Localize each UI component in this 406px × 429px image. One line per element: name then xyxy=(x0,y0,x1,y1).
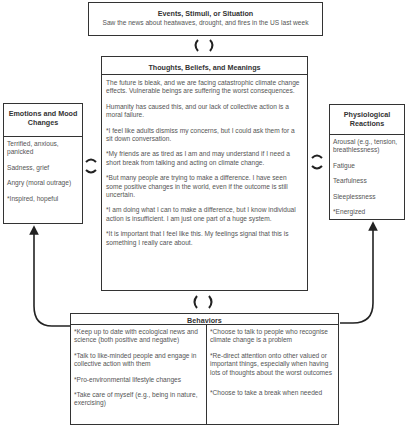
thought-item: *My friends are as tired as I am and may… xyxy=(106,150,303,167)
physiological-list: Arousal (e.g., tension, breathlessness) … xyxy=(330,135,404,216)
thoughts-box: Thoughts, Beliefs, and Meanings The futu… xyxy=(101,56,308,291)
events-text: Saw the news about heatwaves, drought, a… xyxy=(89,19,322,27)
physiological-item: Arousal (e.g., tension, breathlessness) xyxy=(333,138,401,155)
behaviors-left-column: *Keep up to date with ecological news an… xyxy=(71,325,207,424)
emotion-item: Sadness, grief xyxy=(7,164,79,172)
behaviors-right-column: *Choose to talk to people who recognise … xyxy=(207,325,338,424)
emotions-title: Emotions and Mood Changes xyxy=(4,104,82,137)
thought-item: *It is important that I feel like this. … xyxy=(106,230,303,247)
behavior-item: *Re-direct attention onto other valued o… xyxy=(210,352,335,377)
behavior-item: *Take care of myself (e.g., being in nat… xyxy=(74,391,202,408)
cycle-icon-emotions-thoughts xyxy=(86,160,96,173)
emotion-item: Terrified, anxious, panicked xyxy=(7,140,79,157)
emotion-item: Angry (moral outrage) xyxy=(7,179,79,187)
events-box: Events, Stimuli, or Situation Saw the ne… xyxy=(88,2,323,36)
cycle-icon-events-thoughts xyxy=(196,40,213,51)
physiological-title: Physiological Reactions xyxy=(330,105,404,135)
emotions-box: Emotions and Mood Changes Terrified, anx… xyxy=(3,103,83,224)
behavior-item: *Pro-environmental lifestyle changes xyxy=(74,376,202,384)
thought-item: The future is bleak, and we are facing c… xyxy=(106,79,303,96)
arrow-behaviors-to-emotions xyxy=(34,230,70,326)
cycle-icon-thoughts-physiological xyxy=(312,156,322,169)
physiological-item: *Energized xyxy=(333,208,401,216)
behaviors-box: Behaviors *Keep up to date with ecologic… xyxy=(70,313,339,425)
emotion-item: *Inspired, hopeful xyxy=(7,195,79,203)
behavior-item: *Talk to like-minded people and engage i… xyxy=(74,352,202,369)
thoughts-list: The future is bleak, and we are facing c… xyxy=(102,75,307,247)
physiological-item: Fatigue xyxy=(333,162,401,170)
thought-item: *I am doing what I can to make a differe… xyxy=(106,206,303,223)
events-title: Events, Stimuli, or Situation xyxy=(89,3,322,19)
behavior-item: *Choose to take a break when needed xyxy=(210,389,335,397)
thought-item: Humanity has caused this, and our lack o… xyxy=(106,103,303,120)
physiological-box: Physiological Reactions Arousal (e.g., t… xyxy=(329,104,405,220)
emotions-list: Terrified, anxious, panicked Sadness, gr… xyxy=(4,137,82,203)
behaviors-columns: *Keep up to date with ecological news an… xyxy=(71,325,338,424)
physiological-item: Tearfulness xyxy=(333,177,401,185)
arrow-behaviors-to-physiological xyxy=(340,226,373,323)
cycle-icon-thoughts-behaviors xyxy=(195,296,212,308)
physiological-item: Sleeplessness xyxy=(333,193,401,201)
thoughts-title: Thoughts, Beliefs, and Meanings xyxy=(102,57,307,75)
thought-item: *But many people are trying to make a di… xyxy=(106,174,303,199)
behavior-item: *Choose to talk to people who recognise … xyxy=(210,328,335,345)
behavior-item: *Keep up to date with ecological news an… xyxy=(74,328,202,345)
behaviors-title: Behaviors xyxy=(71,314,338,325)
thought-item: *I feel like adults dismiss my concerns,… xyxy=(106,127,303,144)
